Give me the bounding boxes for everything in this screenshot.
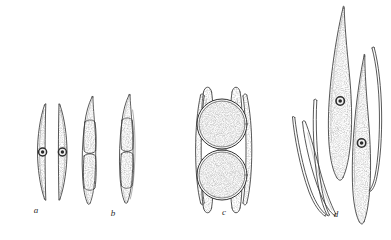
figure-label-b: b [105,208,121,218]
figure-c-zygospore-upper [197,99,247,149]
figure-a-cell-left [38,104,47,200]
figure-d-nucleus-lower [357,139,365,147]
plate-drawing [0,0,391,240]
illustration-plate: a b c d [0,0,391,240]
figure-a-nucleus-right [58,148,66,156]
figure-d-empty-wall-right [370,47,382,192]
figure-b-group [82,94,135,205]
figure-c-group [196,87,252,213]
figure-label-d: d [328,209,344,219]
figure-d-cell-lower [352,54,370,224]
figure-a-cell-right [58,104,67,201]
figure-b-cell-left [82,96,96,205]
figure-d-group [293,6,382,224]
figure-b-cell-right [119,94,135,204]
figure-a-group [38,104,68,201]
figure-label-a: a [28,205,44,215]
figure-label-c: c [216,207,232,217]
figure-c-zygospore-lower [197,150,247,200]
figure-d-cell-upper [328,6,351,180]
figure-a-nucleus-left [39,148,47,156]
figure-d-nucleus-upper [336,97,344,105]
